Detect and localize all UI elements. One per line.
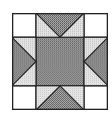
corner-square-bottom-right bbox=[84, 86, 108, 110]
corner-square-bottom-left bbox=[12, 86, 36, 110]
center-square bbox=[36, 37, 84, 86]
corner-square-top-left bbox=[12, 13, 36, 37]
bottom-star-point bbox=[36, 86, 84, 110]
right-star-point bbox=[84, 37, 108, 86]
top-star-point bbox=[36, 13, 84, 37]
quilt-block-diagram bbox=[12, 13, 108, 110]
corner-square-top-right bbox=[84, 13, 108, 37]
left-star-point bbox=[12, 37, 36, 86]
